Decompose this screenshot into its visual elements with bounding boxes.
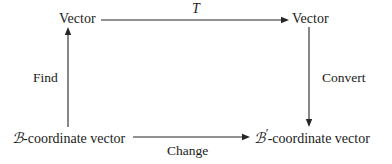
edge-label-transformation-t: T <box>192 2 200 16</box>
node-bottom-left-b-coordinate-vector: ℬ-coordinate vector <box>12 131 125 146</box>
node-bottom-right-b-prime-coordinate-vector: ℬ′-coordinate vector <box>254 131 370 146</box>
script-b-symbol: ℬ <box>254 130 265 146</box>
script-b-symbol: ℬ <box>12 130 23 146</box>
arrow-left-find <box>65 27 71 127</box>
node-bottom-left-suffix: -coordinate vector <box>23 131 125 146</box>
edge-label-convert: Convert <box>322 71 366 85</box>
node-top-right-vector: Vector <box>292 12 329 26</box>
arrow-right-convert <box>306 27 312 127</box>
edge-label-change: Change <box>167 144 208 158</box>
arrow-bottom-change <box>133 134 250 140</box>
arrow-top-t <box>101 17 289 23</box>
edge-label-find: Find <box>33 71 58 85</box>
node-bottom-right-suffix: -coordinate vector <box>268 131 370 146</box>
node-top-left-vector: Vector <box>59 12 96 26</box>
commutative-diagram: Vector Vector ℬ-coordinate vector ℬ′-coo… <box>0 0 392 164</box>
